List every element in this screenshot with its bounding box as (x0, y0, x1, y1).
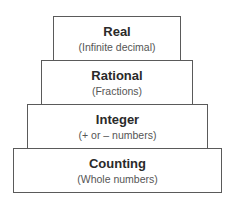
tier-counting: Counting (Whole numbers) (13, 148, 222, 193)
tier-title: Integer (96, 112, 139, 127)
tier-subtitle: (Infinite decimal) (78, 41, 155, 54)
tier-subtitle: (+ or – numbers) (79, 129, 157, 142)
tier-subtitle: (Fractions) (92, 85, 142, 98)
tier-title: Real (103, 24, 130, 39)
tier-integer: Integer (+ or – numbers) (27, 104, 208, 149)
tier-title: Rational (91, 68, 142, 83)
tier-title: Counting (89, 156, 146, 171)
tier-rational: Rational (Fractions) (41, 60, 193, 105)
tier-subtitle: (Whole numbers) (77, 173, 158, 186)
tier-real: Real (Infinite decimal) (53, 16, 181, 61)
